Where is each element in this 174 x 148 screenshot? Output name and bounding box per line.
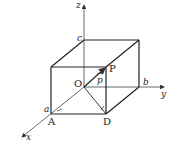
angle-mark-a <box>57 109 62 111</box>
a-point-label: A <box>47 116 56 127</box>
x-label: x <box>26 132 31 142</box>
coordinate-box-diagram: z y x c b a O P A D p → <box>0 0 174 148</box>
a-label: a <box>44 104 49 114</box>
c-label: c <box>77 33 82 43</box>
d-point-label: D <box>103 116 111 127</box>
od-segment <box>84 87 106 114</box>
y-label: y <box>160 89 167 99</box>
z-label: z <box>75 0 81 10</box>
b-label: b <box>143 77 149 87</box>
origin-label: O <box>74 78 82 89</box>
vector-arrow-mark: → <box>97 70 103 78</box>
p-point-label: P <box>109 63 116 74</box>
x-axis <box>22 87 84 137</box>
